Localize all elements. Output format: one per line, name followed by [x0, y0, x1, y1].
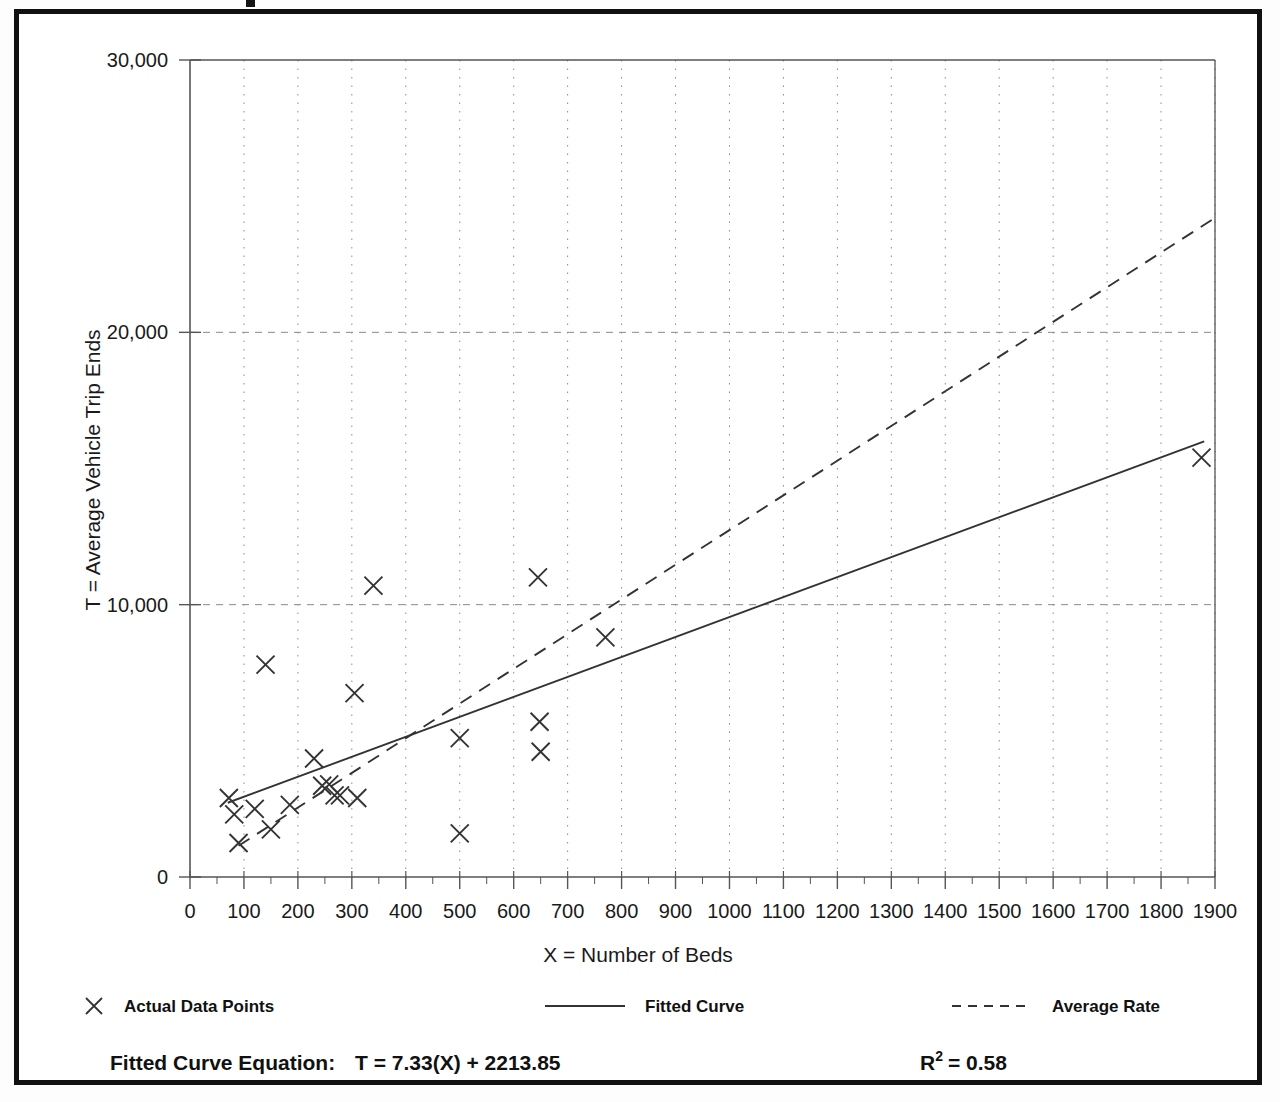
- data-point-marker: [531, 713, 549, 731]
- y-tick-label: 30,000: [107, 49, 168, 71]
- data-point-marker: [230, 834, 248, 852]
- grid-layer: [190, 60, 1215, 877]
- average-rate-line: [239, 218, 1215, 846]
- x-tick-label: 500: [443, 900, 476, 922]
- data-point-marker: [246, 800, 264, 818]
- y-axis-title: T = Average Vehicle Trip Ends: [81, 329, 104, 610]
- data-point-marker: [225, 805, 243, 823]
- x-tick-label: 1200: [815, 900, 860, 922]
- data-point-marker: [346, 684, 364, 702]
- y-tick-label: 20,000: [107, 321, 168, 343]
- equation-value-text: T = 7.33(X) + 2213.85: [355, 1051, 561, 1074]
- x-tick-label: 700: [551, 900, 584, 922]
- legend-label-1: Fitted Curve: [645, 997, 744, 1016]
- cross-marker-icon: [86, 998, 102, 1014]
- r2-exponent-text: 2: [935, 1048, 943, 1064]
- x-tick-label: 1500: [977, 900, 1022, 922]
- legend-item-actual-data-points: Actual Data Points: [86, 997, 274, 1016]
- legend-label-2: Average Rate: [1052, 997, 1160, 1016]
- chart-page: 010,00020,00030,000010020030040050060070…: [0, 0, 1280, 1102]
- x-tick-label: 800: [605, 900, 638, 922]
- y-tick-label: 10,000: [107, 594, 168, 616]
- x-tick-label: 1300: [869, 900, 914, 922]
- r-squared-value: R2= 0.58: [920, 1048, 1007, 1074]
- data-point-marker: [1193, 449, 1211, 467]
- data-point-marker: [257, 656, 275, 674]
- legend-item-average-rate: Average Rate: [952, 997, 1160, 1016]
- x-tick-label: 1900: [1193, 900, 1238, 922]
- scatter-points: [220, 449, 1211, 852]
- r2-base-text: R: [920, 1051, 935, 1074]
- equation-label-text: Fitted Curve Equation:: [110, 1051, 335, 1074]
- data-point-marker: [220, 789, 238, 807]
- x-tick-label: 1800: [1139, 900, 1184, 922]
- legend-label-0: Actual Data Points: [124, 997, 274, 1016]
- data-point-marker: [529, 568, 547, 586]
- x-tick-label: 1100: [762, 900, 805, 922]
- data-series-layer: [220, 218, 1215, 852]
- x-tick-label: 600: [497, 900, 530, 922]
- data-point-marker: [305, 750, 323, 768]
- x-tick-label: 900: [659, 900, 692, 922]
- tick-label-layer: 010,00020,00030,000010020030040050060070…: [107, 49, 1237, 922]
- x-tick-label: 1000: [707, 900, 752, 922]
- legend: Actual Data Points Fitted Curve Average …: [86, 997, 1160, 1016]
- data-point-marker: [281, 796, 299, 814]
- tick-layer: [179, 60, 1215, 889]
- fitted-curve-equation-label: Fitted Curve Equation: T = 7.33(X) + 221…: [110, 1051, 561, 1074]
- x-tick-label: 1600: [1031, 900, 1076, 922]
- x-tick-label: 100: [227, 900, 260, 922]
- x-tick-label: 1400: [923, 900, 968, 922]
- footer: Fitted Curve Equation: T = 7.33(X) + 221…: [110, 1048, 1007, 1074]
- data-point-marker: [348, 789, 366, 807]
- fitted-curve-line: [228, 441, 1204, 802]
- x-tick-label: 300: [335, 900, 368, 922]
- data-point-marker: [532, 743, 550, 761]
- y-tick-label: 0: [157, 866, 168, 888]
- data-point-marker: [596, 628, 614, 646]
- x-tick-label: 1700: [1085, 900, 1130, 922]
- x-axis-title: X = Number of Beds: [543, 943, 733, 966]
- data-point-marker: [364, 577, 382, 595]
- x-tick-label: 0: [184, 900, 195, 922]
- legend-item-fitted-curve: Fitted Curve: [545, 997, 744, 1016]
- data-point-marker: [451, 824, 469, 842]
- x-tick-label: 400: [389, 900, 422, 922]
- x-tick-label: 200: [281, 900, 314, 922]
- r2-value-text: = 0.58: [948, 1051, 1007, 1074]
- scatter-chart: 010,00020,00030,000010020030040050060070…: [0, 0, 1280, 1102]
